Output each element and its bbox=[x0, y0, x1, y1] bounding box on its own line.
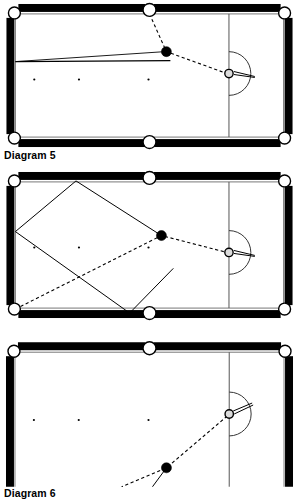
diagram-6-figure: Diagram 6 bbox=[0, 168, 299, 338]
bottom-middle-pocket bbox=[143, 136, 156, 149]
diagram-7-svg bbox=[4, 340, 295, 487]
object-ball bbox=[161, 463, 171, 473]
top-right-pocket bbox=[279, 345, 291, 357]
cue-ball bbox=[225, 69, 233, 77]
diagram-7-table bbox=[4, 340, 295, 487]
top-right-pocket bbox=[279, 7, 291, 19]
diagram-7-figure bbox=[0, 338, 299, 485]
top-middle-pocket bbox=[143, 3, 156, 16]
diagram-6-svg bbox=[4, 170, 295, 321]
object-ball bbox=[156, 231, 166, 241]
diagram-5-caption: Diagram 5 bbox=[4, 149, 56, 161]
top-middle-pocket bbox=[143, 171, 156, 184]
bottom-right-pocket bbox=[279, 132, 291, 144]
cloth-area bbox=[14, 181, 284, 309]
bottom-left-pocket bbox=[8, 303, 20, 315]
diagram-6-caption: Diagram 6 bbox=[4, 487, 56, 499]
diagram-5-svg bbox=[4, 2, 295, 151]
object-ball bbox=[161, 47, 171, 57]
bottom-right-pocket bbox=[279, 303, 291, 315]
bottom-middle-pocket bbox=[143, 307, 156, 320]
top-left-pocket bbox=[8, 175, 20, 187]
bottom-left-pocket bbox=[8, 132, 20, 144]
cloth-area bbox=[14, 351, 285, 487]
top-right-pocket bbox=[279, 175, 291, 187]
diagram-6-table bbox=[4, 170, 295, 321]
cue-ball bbox=[225, 248, 233, 256]
top-middle-pocket bbox=[143, 342, 156, 355]
cue-ball bbox=[225, 410, 233, 418]
top-left-pocket bbox=[8, 345, 20, 357]
diagram-5-table bbox=[4, 2, 295, 151]
top-left-pocket bbox=[8, 7, 20, 19]
diagram-5-figure: Diagram 5 bbox=[0, 0, 299, 168]
